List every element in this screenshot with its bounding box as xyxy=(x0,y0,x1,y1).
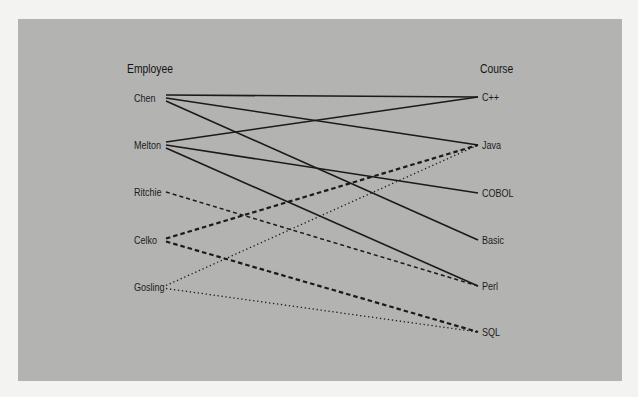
link-celko-java xyxy=(166,145,478,239)
link-gosling-java xyxy=(166,145,478,286)
link-chen-cpp xyxy=(166,95,478,97)
employee-label-celko: Celko xyxy=(134,234,157,246)
course-label-perl: Perl xyxy=(482,280,498,292)
employee-label-melton: Melton xyxy=(134,139,161,151)
course-label-java: Java xyxy=(482,139,501,151)
link-gosling-sql xyxy=(166,289,478,333)
course-label-sql: SQL xyxy=(482,326,500,338)
connection-lines xyxy=(0,0,638,397)
link-melton-cpp xyxy=(166,97,478,142)
course-label-cpp: C++ xyxy=(482,91,499,103)
employee-label-ritchie: Ritchie xyxy=(134,186,162,198)
employee-header: Employee xyxy=(127,62,173,76)
course-label-basic: Basic xyxy=(482,234,504,246)
course-label-cobol: COBOL xyxy=(482,187,514,199)
link-celko-sql xyxy=(166,242,478,333)
link-ritchie-perl xyxy=(166,192,478,286)
employee-label-chen: Chen xyxy=(134,92,156,104)
course-header: Course xyxy=(480,62,513,76)
employee-label-gosling: Gosling xyxy=(134,281,165,293)
